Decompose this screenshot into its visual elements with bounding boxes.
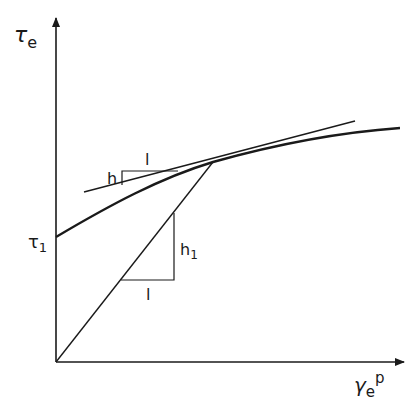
tangent-run-label: l	[145, 150, 149, 169]
hardening-diagram: τe γep τ1 h l h1 l	[0, 0, 420, 411]
tangent-rise-label: h	[107, 169, 117, 188]
x-axis-label: γep	[354, 369, 385, 401]
intercept-label: τ1	[28, 231, 47, 255]
tangent-line	[84, 121, 355, 192]
y-axis-label: τe	[14, 22, 37, 52]
secant-run-label: l	[146, 285, 150, 304]
secant-line	[56, 162, 213, 362]
secant-rise-label: h1	[180, 240, 198, 262]
